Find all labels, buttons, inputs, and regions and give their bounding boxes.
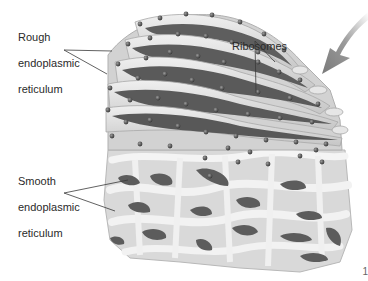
page-fragment: 1: [362, 266, 368, 277]
rough-er-label-line2: endoplasmic: [18, 57, 80, 70]
smooth-er-label: Smooth endoplasmic reticulum: [18, 162, 80, 253]
rough-er-label-line3: reticulum: [18, 83, 80, 96]
smooth-er-label-line1: Smooth: [18, 175, 80, 188]
ribosomes-label-text: Ribosomes: [232, 40, 287, 53]
smooth-er-body: [104, 150, 352, 272]
smooth-er-label-line2: endoplasmic: [18, 201, 80, 214]
smooth-er-label-line3: reticulum: [18, 227, 80, 240]
er-diagram: Rough endoplasmic reticulum Ribosomes Sm…: [0, 0, 368, 281]
arrow-down-left-icon: [322, 12, 368, 74]
rough-er-label: Rough endoplasmic reticulum: [18, 18, 80, 109]
rough-er-body: [106, 14, 348, 150]
ribosomes-label: Ribosomes: [232, 27, 287, 66]
rough-er-label-line1: Rough: [18, 31, 80, 44]
